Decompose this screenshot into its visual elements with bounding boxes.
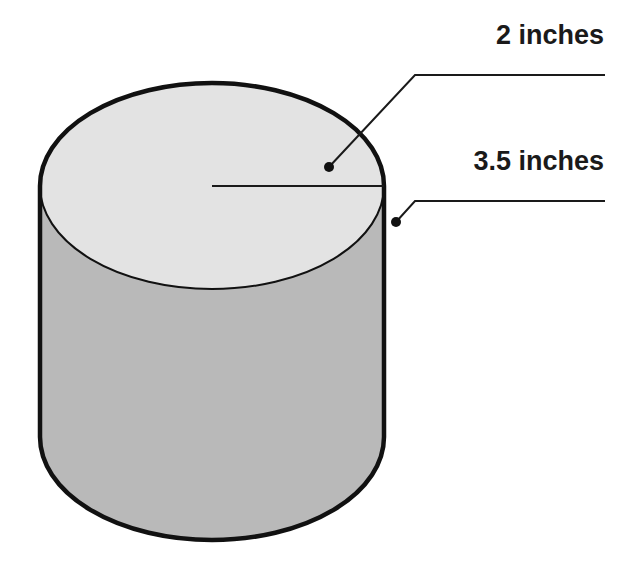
leader-dot-side: [391, 217, 401, 227]
label-side-measurement: 3.5 inches: [473, 146, 604, 177]
cylinder-diagram: [0, 0, 636, 567]
label-top-measurement: 2 inches: [496, 20, 604, 51]
leader-dot-top: [324, 162, 334, 172]
leader-line-side: [396, 201, 605, 222]
